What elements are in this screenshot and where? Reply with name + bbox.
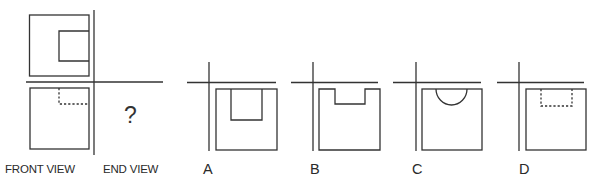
option-c-semicircle (436, 89, 467, 105)
option-b-label[interactable]: B (310, 162, 320, 177)
option-a-notch (231, 89, 262, 120)
front-view-label: FRONT VIEW (5, 164, 75, 176)
projection-drawing (0, 0, 599, 185)
projection-axes (26, 10, 163, 155)
option-c-square (422, 89, 482, 150)
top-view-inner-notch (59, 31, 89, 61)
top-view-label: TOP VIEW (5, 0, 59, 3)
front-view-drawing (30, 88, 89, 149)
unknown-end-view-marker: ? (124, 104, 137, 127)
option-d-hidden-rectangle (541, 89, 572, 106)
option-a-drawing[interactable] (187, 62, 277, 151)
option-b-drawing[interactable] (291, 62, 380, 151)
orthographic-projection-puzzle: TOP VIEW FRONT VIEW END VIEW ? A B C D (0, 0, 599, 185)
option-c-drawing[interactable] (393, 62, 482, 151)
top-view-drawing (30, 15, 90, 76)
option-d-label[interactable]: D (519, 162, 529, 177)
end-view-label: END VIEW (103, 164, 158, 176)
option-a-label[interactable]: A (203, 162, 213, 177)
option-d-square (526, 89, 586, 150)
front-view-hidden-line (59, 88, 89, 104)
option-b-notched-square (319, 89, 380, 150)
option-c-label[interactable]: C (412, 162, 422, 177)
option-d-drawing[interactable] (497, 62, 586, 151)
